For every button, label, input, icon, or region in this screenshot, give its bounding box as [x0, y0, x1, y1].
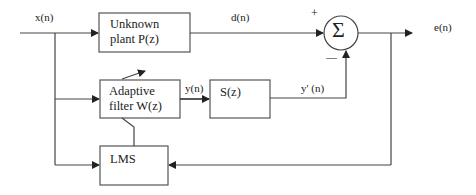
sigma-symbol: Σ [332, 22, 345, 37]
plus-sign: + [311, 7, 318, 19]
lms-label: LMS [110, 152, 136, 167]
adaptive-label-line2: filter W(z) [109, 99, 162, 114]
input-signal-label: x(n) [35, 12, 53, 23]
output-signal-label: e(n) [434, 22, 452, 33]
plant-label-line2: plant P(z) [110, 32, 159, 47]
adaptive-label-line1: Adaptive [109, 84, 162, 99]
adaptation-arrow [122, 71, 145, 79]
filter-output-label: y(n) [185, 83, 203, 94]
desired-signal-label: d(n) [231, 12, 249, 23]
secondary-path-label: S(z) [220, 85, 241, 100]
plant-label: Unknown plant P(z) [110, 17, 159, 47]
lms-to-filter-line [122, 118, 134, 146]
secondary-output-label: y' (n) [301, 83, 324, 94]
plant-label-line1: Unknown [110, 17, 159, 32]
minus-sign: — [326, 52, 337, 63]
adaptive-filter-label: Adaptive filter W(z) [109, 84, 162, 114]
